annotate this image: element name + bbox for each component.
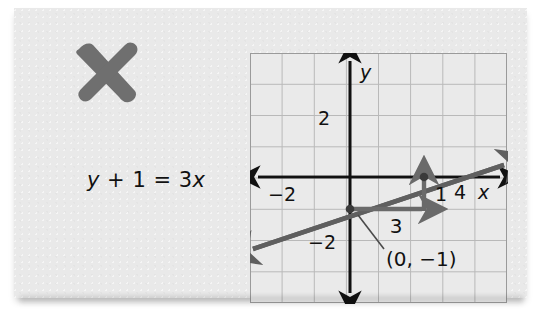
- card-drop-shadow: [20, 296, 523, 306]
- equation-operators: + 1 = 3: [100, 168, 193, 192]
- run-label: 3: [390, 214, 403, 238]
- y-tick-label-2: 2: [318, 107, 330, 129]
- point-y-intercept: [346, 205, 355, 214]
- x-tick-label-4: 4: [454, 181, 466, 203]
- equation-text: y + 1 = 3x: [87, 168, 206, 192]
- equation-rhs-variable: x: [193, 168, 206, 192]
- x-axis-label: x: [477, 181, 490, 203]
- x-tick-label-minus-2: −2: [268, 183, 296, 205]
- intercept-callout-label: (0, −1): [386, 247, 457, 271]
- worked-example-card: y + 1 = 3x: [14, 8, 527, 298]
- rise-label: 1: [435, 183, 447, 205]
- coordinate-graph: y x 2 −2 −2 4 3 1 (0, −1): [250, 53, 508, 304]
- equation-lhs-variable: y: [87, 168, 100, 192]
- y-axis-label: y: [359, 61, 372, 83]
- y-tick-label-minus-2: −2: [308, 231, 336, 253]
- point-on-line: [420, 173, 429, 182]
- x-cross-mark-icon: [69, 35, 143, 109]
- screenshot-root: y + 1 = 3x: [0, 0, 543, 324]
